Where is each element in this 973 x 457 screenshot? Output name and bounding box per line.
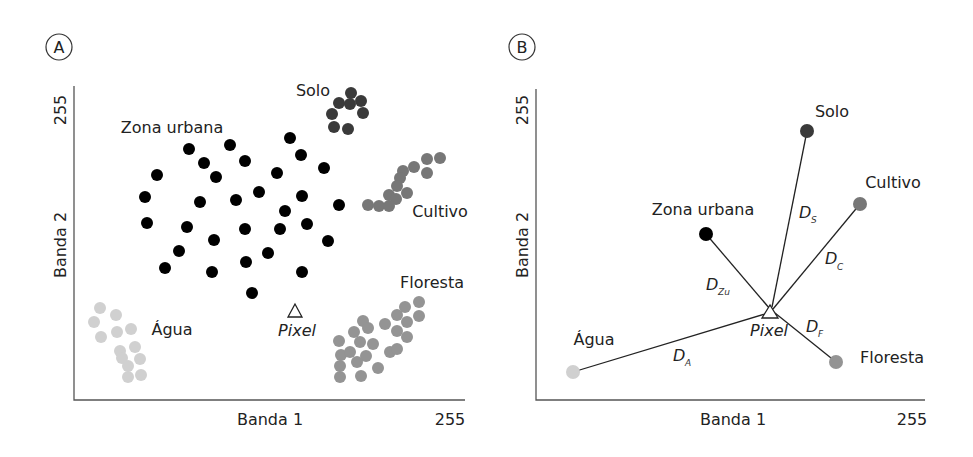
- svg-text:D: D: [799, 203, 811, 222]
- centroid-agua: [566, 365, 580, 379]
- panel-b-ylabel: Banda 2: [513, 212, 532, 278]
- centroid-cultivo: [853, 197, 867, 211]
- svg-text:D: D: [825, 249, 837, 268]
- distance-label-f: D F: [806, 317, 824, 339]
- pixel-triangle-a: [288, 304, 302, 317]
- pixel-label-b: Pixel: [750, 321, 788, 340]
- label-floresta-b: Floresta: [860, 348, 924, 367]
- pixel-label-a: Pixel: [278, 321, 316, 340]
- cluster-zona-urbana: [139, 132, 345, 299]
- label-floresta-a: Floresta: [400, 273, 464, 292]
- svg-text:D: D: [706, 275, 718, 294]
- label-zona-urbana-b: Zona urbana: [652, 200, 754, 219]
- panel-b: B 255 Banda 2 Banda 1 255 Zona urbana So…: [509, 34, 927, 429]
- svg-text:F: F: [818, 329, 824, 339]
- label-agua-a: Água: [151, 320, 192, 339]
- cluster-floresta: [333, 296, 425, 383]
- label-solo-b: Solo: [815, 102, 849, 121]
- label-cultivo-b: Cultivo: [865, 173, 921, 192]
- centroid-floresta: [829, 355, 843, 369]
- svg-text:Zu: Zu: [717, 287, 730, 297]
- distance-label-s: D S: [799, 203, 817, 225]
- centroid-zona-urbana: [699, 227, 713, 241]
- panel-a-xlabel: Banda 1: [237, 410, 303, 429]
- centroid-solo: [800, 124, 814, 138]
- label-agua-b: Água: [573, 330, 614, 349]
- pixel-triangle-b: [762, 305, 778, 318]
- panel-a-xmax-label: 255: [435, 410, 466, 429]
- cluster-agua: [88, 302, 147, 383]
- svg-text:D: D: [806, 317, 818, 336]
- figure: A 255 Banda 2 Banda 1 255 Zona urbana So: [0, 0, 973, 457]
- svg-text:S: S: [811, 215, 817, 225]
- svg-text:D: D: [673, 346, 685, 365]
- label-solo-a: Solo: [296, 81, 330, 100]
- distance-label-c: D C: [825, 249, 844, 272]
- panel-b-xlabel: Banda 1: [700, 410, 766, 429]
- svg-text:C: C: [837, 262, 844, 272]
- panel-a-ylabel: Banda 2: [51, 212, 70, 278]
- distance-label-a: D A: [673, 346, 691, 368]
- panel-b-xmax-label: 255: [897, 410, 928, 429]
- panel-a: A 255 Banda 2 Banda 1 255 Zona urbana So: [46, 34, 468, 429]
- panel-b-badge: B: [517, 38, 528, 57]
- label-cultivo-a: Cultivo: [412, 202, 468, 221]
- label-zona-urbana-a: Zona urbana: [121, 118, 223, 137]
- cluster-solo: [326, 87, 369, 135]
- svg-text:A: A: [684, 358, 691, 368]
- panel-a-ymax-label: 255: [51, 95, 70, 126]
- distance-label-zu: D Zu: [706, 275, 730, 297]
- panel-a-badge: A: [54, 38, 65, 57]
- panel-b-ymax-label: 255: [513, 95, 532, 126]
